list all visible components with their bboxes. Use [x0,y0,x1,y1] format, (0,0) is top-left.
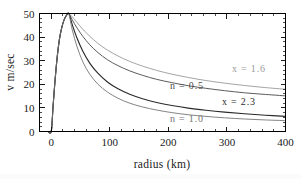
y-tick-label: 10 [24,102,36,114]
velocity-vs-radius-chart: 0100200300400 01020304050 x = 1.6n = 0.5… [0,0,301,179]
y-tick-label: 20 [24,78,36,90]
y-tick-labels: 01020304050 [24,8,36,138]
y-axis-title: v m/sec [4,53,16,91]
x-axis-title: radius (km) [134,158,191,171]
y-tick-label: 0 [29,126,35,138]
y-tick-label: 30 [24,55,36,67]
x-tick-labels: 0100200300400 [48,136,294,148]
x-tick-label: 100 [102,136,119,148]
x-tick-label: 0 [48,136,54,148]
y-tick-label: 40 [24,31,36,43]
x-tick-label: 400 [277,136,294,148]
curve-label-3: x = 2.3 [222,96,256,107]
curve-label-4: n = 1.0 [170,113,204,124]
curve-label-1: x = 1.6 [232,63,266,74]
x-tick-label: 300 [219,136,236,148]
x-tick-label: 200 [160,136,177,148]
figure-container: 0100200300400 01020304050 x = 1.6n = 0.5… [0,0,301,179]
y-tick-label: 50 [24,8,36,20]
curve-label-2: n = 0.5 [170,80,204,91]
page-edge-artifact [0,174,301,179]
